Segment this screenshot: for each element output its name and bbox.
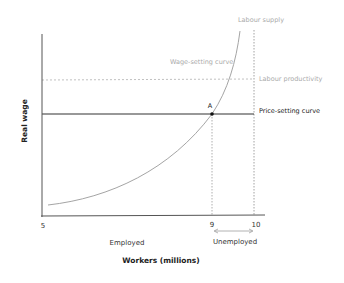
- labour-productivity-label: Labour productivity: [259, 75, 323, 83]
- point-a-label: A: [208, 102, 213, 110]
- unemployed-label: Unemployed: [213, 238, 257, 246]
- x-tick-10: 10: [252, 221, 261, 229]
- y-axis-title: Real wage: [20, 99, 29, 143]
- labour-supply-label: Labour supply: [238, 16, 284, 24]
- price-setting-label: Price-setting curve: [259, 107, 320, 115]
- x-axis: [41, 215, 265, 216]
- labour-market-chart: Labour supply Wage-setting curve Labour …: [0, 0, 344, 283]
- x-tick-5: 5: [41, 222, 45, 230]
- employed-label: Employed: [110, 239, 145, 247]
- unemployed-range-arrow: [214, 229, 253, 233]
- x-axis-title: Workers (millions): [122, 256, 199, 265]
- labour-productivity-line: [42, 79, 254, 80]
- point-a-marker: [210, 112, 214, 116]
- x-tick-9: 9: [210, 221, 214, 229]
- wage-setting-label: Wage-setting curve: [170, 58, 233, 66]
